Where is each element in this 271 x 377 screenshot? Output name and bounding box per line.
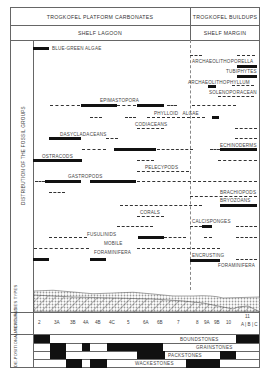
label-codiaceans: CODIACEANS [135, 122, 167, 127]
dash-phylloid-1 [90, 117, 102, 118]
grainstones-block-3 [107, 343, 163, 351]
dash-gastropods-1 [35, 181, 45, 182]
mft-6b: 6B [157, 320, 163, 325]
bar-echinoderms-2 [220, 148, 257, 151]
dash-solenoporacean [218, 96, 254, 97]
label-brachiopods: BRACHIOPODS [220, 190, 256, 195]
label-phylloid-algae: PHYLLOID ALGAE [154, 111, 199, 116]
bar-fusulinids [138, 236, 164, 239]
dash-phylloid-2 [125, 117, 136, 118]
mft-8: 8 [196, 320, 199, 325]
dash-calcisponges-3 [236, 226, 257, 227]
mft-4b: 4B [95, 320, 101, 325]
label-calcisponges: CALCISPONGES [192, 219, 231, 224]
mft-6a: 6A [143, 320, 149, 325]
mft-9a: 9A [204, 320, 210, 325]
wackestones-block-1 [66, 359, 82, 368]
dash-epimastopora-3 [167, 105, 177, 106]
facies-profile-illustration [33, 285, 260, 312]
label-blue-green-algae: BLUE-GREEN ALGAE [52, 46, 101, 51]
mft-10: 10 [226, 320, 231, 325]
mft-9b: 9B [214, 320, 220, 325]
lagoon-subtitle: SHELF LAGOON [10, 30, 190, 36]
bar-gastropods-2 [90, 180, 136, 183]
packstones-block-1 [137, 351, 165, 359]
grainstones-block-1 [50, 343, 66, 359]
dash-echinoderms-1 [82, 149, 106, 150]
bar-dasycladaceans [49, 137, 81, 140]
label-foraminifera-encrusting: FORAMINIFERA [218, 263, 255, 268]
dash-mobile-foram-1 [34, 248, 89, 249]
label-mobile: MOBILE [104, 241, 123, 246]
grainstones-block-2 [82, 343, 90, 351]
bar-epimastopora-1 [81, 104, 117, 107]
dash-codiaceans-2 [235, 128, 257, 129]
dash-echinoderms-3 [210, 149, 220, 150]
label-epimastopora: EPIMASTOPORA [100, 98, 139, 103]
bar-ostracods [33, 159, 82, 162]
dash-encrusting-foram [236, 259, 257, 260]
dash-archaeolithoporella-2 [237, 55, 255, 56]
label-fusulinids: FUSULINIDS [87, 232, 116, 237]
label-gastropods: GASTROPODS [68, 174, 102, 179]
bar-gastropods-1 [45, 180, 81, 183]
lagoon-margin-boundary [190, 40, 191, 290]
label-solenoporacean: SOLENOPORACEAN [209, 90, 257, 95]
axis-label: DISTRIBUTION OF THE FOSSIL GROUPS [21, 106, 26, 205]
dash-calcisponges-1 [117, 226, 153, 227]
dash-epimastopora-4 [192, 105, 236, 106]
dash-echinoderms-2 [157, 149, 193, 150]
wackestones-block-3 [186, 359, 220, 368]
dash-fusulinids-4 [236, 237, 257, 238]
subheader-divider [10, 40, 260, 41]
dash-brachiopods-1 [49, 192, 65, 193]
label-tubiphytes: TUBIPHYTES [226, 69, 257, 74]
dash-corals [137, 216, 164, 217]
boundstones-block-2 [236, 335, 259, 343]
dash-fusulinids-3 [204, 237, 212, 238]
dash-archaeolithophyllum [232, 85, 254, 86]
dash-bryozoans [120, 205, 202, 206]
label-grainstones: GRAINSTONES [196, 345, 233, 350]
label-archaeolithoporella: ARCHAEOLITHOPORELLA [192, 59, 253, 64]
label-wackestones: WACKESTONES [135, 361, 174, 366]
buildups-title: TROGKOFEL BUILDUPS [190, 14, 260, 20]
textures-label: DE-POSITIONAL TEXTURES [13, 307, 18, 367]
label-corals: CORALS [140, 210, 160, 215]
wackestones-block-2 [90, 359, 107, 368]
axis-divider [33, 40, 34, 368]
mft-3a: 3A [54, 320, 60, 325]
mft-4c: 4C [109, 320, 115, 325]
bar-epimastopora-2 [137, 104, 164, 107]
dash-epimastopora-1 [50, 105, 80, 106]
dash-ostracods-2 [218, 160, 257, 161]
bar-calcisponges [202, 225, 212, 228]
bar-echinoderms-1 [114, 148, 156, 151]
bar-blue-green-algae [33, 47, 49, 50]
bar-bryozoans [220, 204, 257, 207]
packstones-block-2 [220, 351, 236, 359]
bar-encrusting-foram [190, 259, 220, 262]
platform-title: TROGKOFEL PLATFORM CARBONATES [10, 14, 190, 20]
mft-3b: 3B [70, 320, 76, 325]
bar-phylloid-algae [212, 116, 219, 119]
micro-top-line [10, 312, 260, 313]
bar-tubiphytes [237, 75, 257, 78]
dash-epimastopora-2 [117, 105, 136, 106]
dash-archaeolithoporella-1 [190, 55, 202, 56]
header-divider [10, 25, 260, 26]
dash-brachiopods-2 [190, 196, 257, 197]
dash-dasycladaceans [106, 138, 118, 139]
mft-5: 5 [127, 320, 130, 325]
dash-gastropods-2 [137, 181, 257, 182]
bar-mobile-foram-2 [90, 258, 106, 261]
dash-calcisponges-2 [190, 226, 202, 227]
dash-mobile-foram-2 [137, 248, 220, 249]
boundstones-block-1 [34, 335, 50, 343]
dash-fusulinids-2 [164, 237, 186, 238]
bar-mobile-foram-1 [33, 258, 49, 261]
mft-11: 11 [245, 314, 250, 319]
label-foraminifera-mobile: FORAMINIFERA [94, 250, 131, 255]
bar-archaeolithoporella [237, 65, 257, 68]
dash-ostracods [137, 160, 154, 161]
